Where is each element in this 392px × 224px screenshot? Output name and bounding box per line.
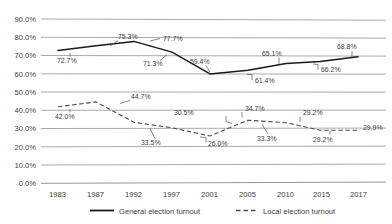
y-tick-label: 0.0% — [19, 179, 37, 188]
x-tick-label: 1987 — [87, 190, 104, 199]
data-label: 33.3% — [257, 135, 277, 142]
data-label: 29.2% — [313, 136, 333, 143]
x-tick-label: 1983 — [49, 190, 66, 199]
y-tick-label: 70.0% — [14, 51, 36, 60]
data-label: 72.7% — [57, 57, 77, 64]
y-tick-label: 10.0% — [14, 161, 36, 170]
data-label: 26.0% — [208, 140, 228, 147]
data-label: 42.0% — [55, 113, 75, 120]
x-tick-label: 2010 — [277, 190, 294, 199]
y-tick-label: 40.0% — [14, 106, 36, 115]
x-tick-label: 2017 — [350, 190, 367, 199]
y-tick-label: 80.0% — [14, 33, 36, 42]
data-label: 77.7% — [163, 35, 183, 42]
data-label: 59.4% — [190, 58, 210, 65]
x-tick-label: 2015 — [313, 190, 330, 199]
y-tick-label: 60.0% — [14, 70, 36, 79]
y-tick-label: 50.0% — [14, 88, 36, 97]
x-tick-label: 2005 — [239, 190, 256, 199]
data-label: 71.3% — [143, 60, 163, 67]
data-label: 33.5% — [141, 139, 161, 146]
data-label: 34.7% — [245, 105, 265, 112]
data-label: 65.1% — [262, 50, 282, 57]
data-label: 44.7% — [131, 93, 151, 100]
gridline-70 — [41, 56, 386, 57]
data-label: 68.8% — [337, 43, 357, 50]
chart-canvas: 90.0% 80.0% 70.0% 60.0% 50.0% 40.0% 30.0… — [0, 0, 392, 224]
x-tick-label: 1992 — [125, 190, 142, 199]
y-tick-label: 20.0% — [14, 143, 36, 152]
y-tick-label: 90.0% — [14, 15, 36, 24]
data-label: 75.3% — [118, 33, 138, 40]
data-label: 61.4% — [255, 77, 275, 84]
x-axis-labels: 1983 1987 1992 1997 2001 2005 2010 2015 … — [49, 190, 367, 199]
turnout-line-chart: 90.0% 80.0% 70.0% 60.0% 50.0% 40.0% 30.0… — [0, 0, 392, 224]
x-tick-label: 2001 — [201, 190, 218, 199]
data-label: 30.5% — [174, 109, 194, 116]
x-tick-label: 1997 — [163, 190, 180, 199]
legend-label-local: Local election turnout — [263, 207, 336, 216]
data-label-end: 29.9% — [363, 124, 383, 131]
data-label: 29.2% — [303, 109, 323, 116]
y-tick-label: 30.0% — [14, 124, 36, 133]
data-label: 66.2% — [321, 66, 341, 73]
legend-label-general: General election turnout — [119, 207, 201, 216]
